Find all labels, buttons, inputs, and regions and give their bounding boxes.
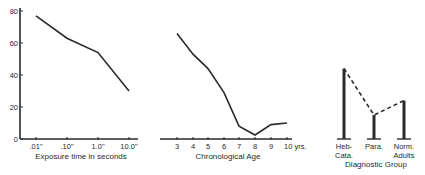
x-axis-label: Chronological Age: [196, 152, 261, 161]
x-tick-label: Heb-: [336, 142, 353, 151]
x-tick-label: Norm.: [394, 142, 414, 151]
x-tick-label: 7: [237, 142, 241, 151]
panel-exposure-time: 020406080.01".10"1.0"10.0"Exposure time …: [10, 7, 138, 161]
x-tick-label: .10": [60, 142, 73, 151]
x-tick-label: 4: [191, 142, 195, 151]
data-line: [177, 33, 287, 135]
y-tick-label: 80: [10, 7, 18, 16]
x-tick-label: Cata.: [335, 151, 353, 160]
data-line: [36, 16, 129, 91]
x-tick-label: Adults: [394, 151, 415, 160]
panel-diagnostic-group: Heb-Cata.Para.Norm.AdultsDiagnostic Grou…: [335, 69, 415, 169]
y-tick-label: 20: [10, 103, 18, 112]
figure-three-panel-chart: 020406080.01".10"1.0"10.0"Exposure time …: [0, 0, 425, 175]
x-tick-label: 1.0": [91, 142, 104, 151]
x-tick-label: 8: [253, 142, 257, 151]
x-tick-label: 10 yrs.: [284, 142, 307, 151]
x-axis-label: Diagnostic Group: [345, 160, 407, 169]
x-tick-label: Para.: [365, 142, 383, 151]
panel-chronological-age: 345678910 yrs.Chronological Age: [160, 33, 307, 161]
y-tick-label: 60: [10, 39, 18, 48]
y-tick-label: 0: [14, 135, 18, 144]
x-axis-label: Exposure time in seconds: [35, 152, 127, 161]
x-tick-label: 9: [269, 142, 273, 151]
y-tick-label: 40: [10, 71, 18, 80]
x-tick-label: 5: [206, 142, 210, 151]
x-tick-label: 6: [222, 142, 226, 151]
x-tick-label: 10.0": [120, 142, 138, 151]
x-tick-label: 3: [175, 142, 179, 151]
x-tick-label: .01": [29, 142, 42, 151]
dashed-connector: [344, 69, 404, 115]
